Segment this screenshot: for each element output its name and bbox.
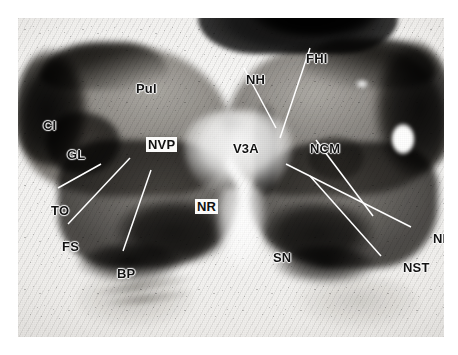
annotation-layer: PulCIGLNVPNRV3ANHFHINCMTOFSBPSNNPFNST xyxy=(18,18,444,337)
leader-bp xyxy=(123,170,151,251)
figure-root: PulCIGLNVPNRV3ANHFHINCMTOFSBPSNNPFNST xyxy=(0,0,458,355)
leader-to xyxy=(58,164,101,188)
label-bp: BP xyxy=(117,267,135,280)
leader-fs xyxy=(68,158,130,224)
label-fhi: FHI xyxy=(306,52,328,65)
label-fs: FS xyxy=(62,240,79,253)
label-npf: NPF xyxy=(433,232,444,245)
label-nr: NR xyxy=(195,199,218,214)
label-nvp: NVP xyxy=(146,137,177,152)
label-pul: Pul xyxy=(136,82,157,95)
label-gl: GL xyxy=(67,148,85,161)
leader-npf xyxy=(286,164,411,227)
label-nh: NH xyxy=(246,73,265,86)
leader-line-group xyxy=(18,18,444,337)
label-ncm: NCM xyxy=(310,142,340,155)
label-sn: SN xyxy=(273,251,291,264)
label-to: TO xyxy=(51,204,69,217)
label-v3a: V3A xyxy=(233,142,259,155)
histology-plate: PulCIGLNVPNRV3ANHFHINCMTOFSBPSNNPFNST xyxy=(18,18,444,337)
label-nst: NST xyxy=(403,261,430,274)
label-ci: CI xyxy=(43,119,56,132)
leader-nst xyxy=(310,176,381,256)
